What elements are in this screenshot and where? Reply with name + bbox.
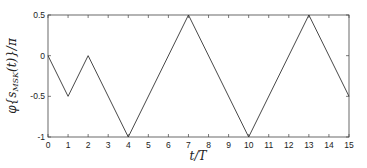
x-tick-label: 5 [146, 140, 151, 150]
x-tick-label: 3 [106, 140, 111, 150]
y-tick-label: 0 [40, 51, 45, 61]
y-tick-label: 0.5 [33, 10, 45, 20]
x-tick-label: 13 [304, 140, 314, 150]
x-tick-label: 6 [166, 140, 171, 150]
phase-line [48, 15, 349, 137]
phase-chart: 0123456789101112131415 -1-0.500.5 t/T φ{… [0, 0, 367, 168]
x-tick-label: 8 [206, 140, 211, 150]
x-tick-label: 0 [46, 140, 51, 150]
x-tick-label: 15 [344, 140, 354, 150]
y-tick-label: -0.5 [30, 91, 45, 101]
x-axis-ticks: 0123456789101112131415 [46, 15, 354, 150]
x-tick-label: 2 [86, 140, 91, 150]
x-tick-label: 11 [264, 140, 273, 150]
x-tick-label: 4 [126, 140, 131, 150]
chart-container: 0123456789101112131415 -1-0.500.5 t/T φ{… [0, 0, 367, 168]
x-axis-label: t/T [190, 149, 208, 163]
x-tick-label: 12 [284, 140, 294, 150]
x-tick-label: 1 [66, 140, 71, 150]
y-axis-label: φ{sMSK(t)}/π [5, 37, 20, 114]
y-tick-label: -1 [37, 132, 45, 142]
x-tick-label: 10 [244, 140, 254, 150]
x-tick-label: 14 [324, 140, 334, 150]
plot-frame [48, 15, 349, 137]
x-tick-label: 9 [226, 140, 231, 150]
